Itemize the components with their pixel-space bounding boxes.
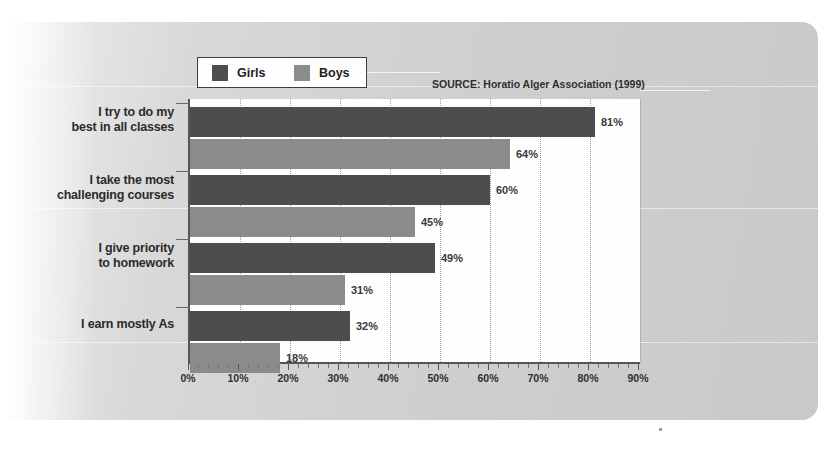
x-tick-80 [588,364,589,370]
x-tick-minor [378,364,379,368]
x-tick-minor [408,364,409,368]
x-tick-minor [518,364,519,368]
x-tick-10 [238,364,239,370]
x-tick-50 [438,364,439,370]
bar-value-girls-3: 32% [356,311,378,341]
x-tick-minor [318,364,319,368]
x-tick-minor [458,364,459,368]
x-tick-minor [198,364,199,368]
y-tick-1 [176,171,190,172]
x-tick-minor [268,364,269,368]
bar-boys-0[interactable] [190,139,510,169]
x-tick-90 [638,364,639,370]
bar-value-girls-0: 81% [601,107,623,137]
x-tick-minor [248,364,249,368]
x-tick-minor [218,364,219,368]
x-tick-70 [538,364,539,370]
scan-artifact [659,428,662,431]
gridline-70 [540,99,541,362]
bar-girls-0[interactable] [190,107,595,137]
y-tick-0 [176,103,190,104]
x-tick-minor [478,364,479,368]
x-tick-minor [628,364,629,368]
bar-boys-1[interactable] [190,207,415,237]
x-tick-minor [428,364,429,368]
x-tick-minor [508,364,509,368]
x-tick-minor [348,364,349,368]
gridline-90 [640,99,641,362]
scanned-page: Girls Boys SOURCE: Horatio Alger Associa… [0,0,825,450]
category-label-2: I give priority to homework [34,241,174,271]
gridline-80 [590,99,591,362]
x-tick-minor [398,364,399,368]
x-tick-label-20: 20% [277,372,298,384]
x-tick-minor [418,364,419,368]
bar-girls-2[interactable] [190,243,435,273]
x-tick-minor [328,364,329,368]
x-tick-label-50: 50% [427,372,448,384]
bar-girls-3[interactable] [190,311,350,341]
x-tick-label-0: 0% [180,372,195,384]
x-tick-minor [228,364,229,368]
x-tick-minor [448,364,449,368]
x-tick-minor [258,364,259,368]
x-tick-minor [598,364,599,368]
x-tick-minor [548,364,549,368]
bar-value-boys-1: 45% [421,207,443,237]
x-tick-minor [558,364,559,368]
bar-value-boys-0: 64% [516,139,538,169]
x-tick-label-70: 70% [527,372,548,384]
x-tick-30 [338,364,339,370]
x-axis: 0% 10% 20% 30% 40% 50% 60% 70% 80% 90% [188,364,640,394]
x-tick-20 [288,364,289,370]
x-tick-minor [298,364,299,368]
x-tick-minor [208,364,209,368]
x-tick-label-60: 60% [477,372,498,384]
y-tick-3 [176,307,190,308]
category-label-0: I try to do my best in all classes [34,105,174,135]
x-tick-label-10: 10% [227,372,248,384]
bar-value-boys-2: 31% [351,275,373,305]
bar-value-girls-1: 60% [496,175,518,205]
x-tick-minor [618,364,619,368]
x-tick-40 [388,364,389,370]
x-tick-minor [528,364,529,368]
x-tick-minor [278,364,279,368]
x-tick-minor [358,364,359,368]
x-tick-minor [568,364,569,368]
bar-chart: I try to do my best in all classes I tak… [182,75,640,365]
x-tick-label-90: 90% [627,372,648,384]
x-tick-60 [488,364,489,370]
x-tick-0 [188,364,189,370]
x-tick-minor [308,364,309,368]
x-tick-minor [498,364,499,368]
x-tick-minor [368,364,369,368]
plot-area: 81% 64% 60% 45% 49% 31% 32% 18% [188,99,640,364]
x-tick-label-40: 40% [377,372,398,384]
x-tick-minor [608,364,609,368]
x-tick-label-30: 30% [327,372,348,384]
y-axis-labels: I try to do my best in all classes I tak… [34,99,174,364]
x-tick-minor [578,364,579,368]
bar-boys-2[interactable] [190,275,345,305]
category-label-1: I take the most challenging courses [34,173,174,203]
bar-value-girls-2: 49% [441,243,463,273]
bar-girls-1[interactable] [190,175,490,205]
x-tick-minor [468,364,469,368]
category-label-3: I earn mostly As [34,317,174,332]
x-tick-label-80: 80% [577,372,598,384]
y-tick-2 [176,239,190,240]
